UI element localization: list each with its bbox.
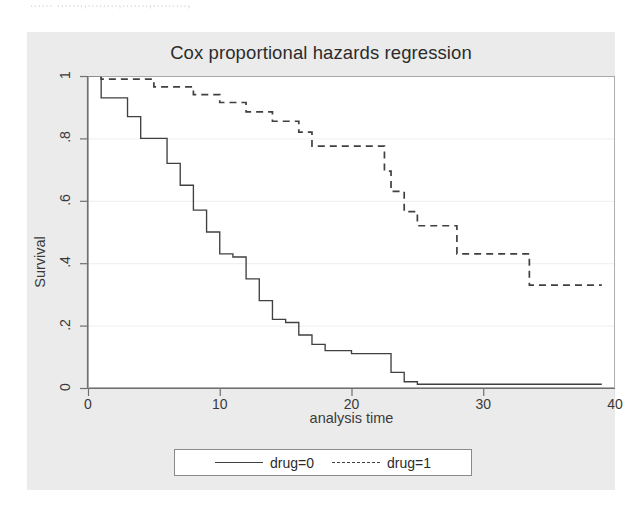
chart-title: Cox proportional hazards regression	[27, 42, 615, 64]
legend-swatch-solid-icon	[215, 462, 263, 463]
y-tick-label-4: .8	[57, 125, 73, 149]
graph-region: Cox proportional hazards regression 0.2.…	[27, 32, 615, 490]
y-axis-label-wrap: Survival	[31, 202, 49, 322]
y-axis-label: Survival	[32, 236, 48, 288]
series-line-drug=0	[88, 76, 602, 384]
legend-entry-drug=1[interactable]: drug=1	[332, 455, 431, 471]
y-tick-label-5: 1	[57, 63, 73, 87]
series-line-drug=1	[88, 76, 602, 285]
scan-artifact-text: ...... .......,........,.......,........…	[30, 0, 390, 10]
legend-swatch-dashed-icon	[332, 462, 380, 463]
series-layer	[88, 76, 602, 384]
x-tick-marks	[89, 389, 616, 396]
legend-label: drug=0	[270, 455, 314, 471]
y-tick-marks	[80, 77, 87, 389]
legend-entry-drug=0[interactable]: drug=0	[215, 455, 314, 471]
plot-area	[88, 76, 615, 388]
legend[interactable]: drug=0drug=1	[174, 449, 472, 476]
plot-svg	[88, 76, 615, 388]
plot-frame	[89, 77, 615, 388]
y-tick-label-2: .4	[57, 250, 73, 274]
x-axis-label: analysis time	[88, 410, 615, 426]
gridlines	[88, 77, 615, 389]
y-tick-label-0: 0	[57, 375, 73, 399]
legend-label: drug=1	[387, 455, 431, 471]
y-tick-label-1: .2	[57, 313, 73, 337]
y-tick-label-3: .6	[57, 188, 73, 212]
